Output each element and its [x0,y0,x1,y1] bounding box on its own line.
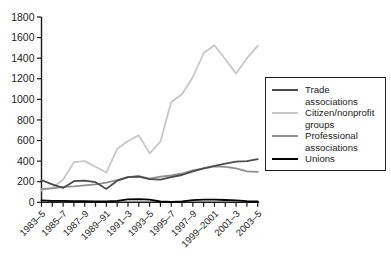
professional-associations-line-swatch-icon [272,135,298,137]
trade-associations-line-swatch-icon [272,89,298,91]
legend-label: Unions [305,153,335,165]
y-tick-label: 400 [17,155,35,167]
legend-label: Citizen/nonprofit groups [305,107,381,130]
y-tick-label: 1200 [11,72,35,84]
unions-line-swatch-icon [272,158,298,160]
legend-item-professional-associations: Professional associations [272,130,381,153]
legend-label: Trade associations [305,84,381,107]
chart-legend: Trade associations Citizen/nonprofit gro… [265,77,386,171]
y-tick-label: 200 [17,175,35,187]
y-axis-ticks: 020040060080010001200140016001800 [11,11,41,208]
y-tick-label: 1000 [11,93,35,105]
axes [42,17,260,202]
series-line-professional-associations [42,166,258,189]
y-tick-label: 1400 [11,52,35,64]
series-line-unions [42,199,258,202]
citizen-nonprofit-line-swatch-icon [272,112,298,114]
series-line-citizen-nonprofit-groups [42,45,258,190]
x-axis-labels: 1983–51985–71987–91989–911991–31993–5199… [17,208,263,249]
y-tick-label: 600 [17,134,35,146]
y-tick-label: 0 [29,196,35,208]
legend-item-unions: Unions [272,153,381,165]
chart-figure: 0200400600800100012001400160018001983–51… [0,0,391,273]
legend-label: Professional associations [305,130,381,153]
legend-item-trade-associations: Trade associations [272,84,381,107]
x-axis-ticks [42,202,258,207]
y-tick-label: 1600 [11,31,35,43]
y-tick-label: 800 [17,114,35,126]
legend-item-citizen-nonprofit-groups: Citizen/nonprofit groups [272,107,381,130]
y-tick-label: 1800 [11,11,35,23]
